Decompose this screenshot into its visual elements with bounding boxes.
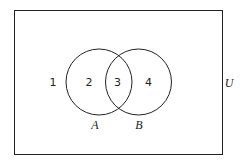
region-4-label: 4 <box>145 76 152 89</box>
region-2-label: 2 <box>86 76 93 89</box>
venn-diagram: 1 2 3 4 A B U <box>0 0 247 163</box>
set-a-circle <box>66 49 132 115</box>
region-3-label: 3 <box>114 76 121 89</box>
set-a-label: A <box>90 118 99 132</box>
region-1-label: 1 <box>50 76 57 89</box>
set-b-label: B <box>135 118 143 132</box>
universe-label: U <box>225 76 235 90</box>
